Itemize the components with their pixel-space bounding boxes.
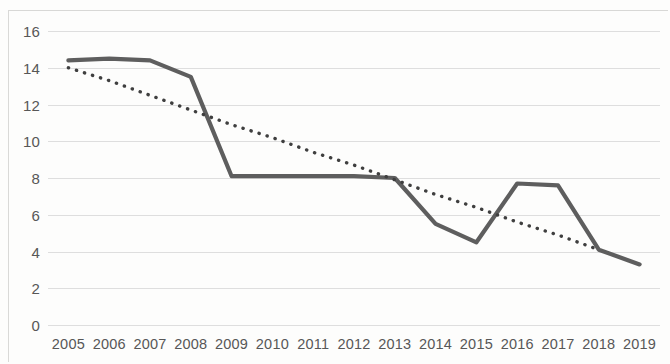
x-tick-2018: 2018 (582, 336, 615, 352)
plot-area (48, 31, 660, 325)
x-tick-2009: 2009 (215, 336, 248, 352)
y-tick-12: 12 (0, 97, 40, 112)
x-tick-2012: 2012 (337, 336, 370, 352)
y-tick-0: 0 (0, 318, 40, 333)
y-tick-2: 2 (0, 281, 40, 296)
y-tick-6: 6 (0, 207, 40, 222)
page-border-top (8, 10, 668, 11)
x-tick-2008: 2008 (174, 336, 207, 352)
x-tick-2010: 2010 (256, 336, 289, 352)
y-tick-10: 10 (0, 134, 40, 149)
x-tick-2007: 2007 (133, 336, 166, 352)
y-tick-14: 14 (0, 60, 40, 75)
y-tick-8: 8 (0, 171, 40, 186)
x-tick-2019: 2019 (623, 336, 656, 352)
y-tick-4: 4 (0, 244, 40, 259)
x-tick-2005: 2005 (52, 336, 85, 352)
y-tick-16: 16 (0, 24, 40, 39)
x-tick-2006: 2006 (93, 336, 126, 352)
x-tick-2011: 2011 (297, 336, 329, 352)
x-tick-2014: 2014 (419, 336, 452, 352)
x-tick-2015: 2015 (460, 336, 493, 352)
series-trendline (68, 68, 598, 250)
x-axis-labels: 2005200620072008200920102011201220132014… (48, 336, 660, 358)
x-tick-2017: 2017 (541, 336, 574, 352)
gridline-0 (48, 325, 660, 326)
series-layer (48, 31, 660, 325)
x-tick-2016: 2016 (501, 336, 534, 352)
line-chart: 0246810121416 20052006200720082009201020… (0, 0, 670, 364)
x-tick-2013: 2013 (378, 336, 411, 352)
y-axis-labels: 0246810121416 (0, 31, 40, 325)
